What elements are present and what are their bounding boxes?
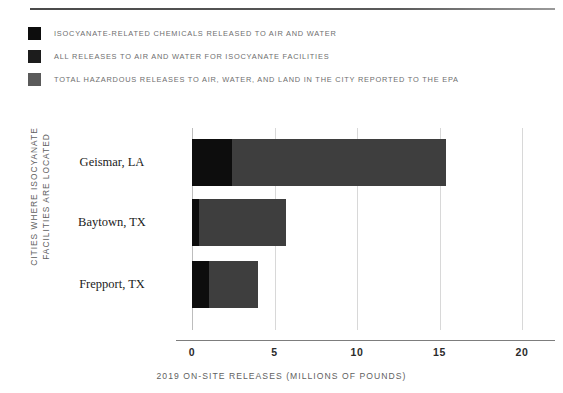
x-axis-line [176,340,555,341]
x-tick-label: 15 [420,346,460,358]
bar-chart: Geismar, LABaytown, TXFrepport, TX 05101… [0,0,563,393]
bar-group [192,261,522,308]
gridline [522,128,523,330]
category-label: Frepport, TX [42,277,182,292]
y-axis-title-line-2: FACILITIES ARE LOCATED [40,97,52,297]
category-label: Geismar, LA [42,155,182,170]
x-tick-label: 0 [172,346,212,358]
y-axis-title: CITIES WHERE ISOCYANATE FACILITIES ARE L… [29,97,52,297]
category-label: Baytown, TX [42,215,182,230]
bar-group [192,199,522,246]
bar-segment [192,199,286,246]
x-tick-label: 10 [337,346,377,358]
x-axis-title: 2019 ON-SITE RELEASES (MILLIONS OF POUND… [0,371,563,381]
bar-segment [192,139,232,186]
x-tick-label: 20 [502,346,542,358]
bar-segment [192,261,209,308]
bar-segment [192,199,199,246]
y-axis-title-line-1: CITIES WHERE ISOCYANATE [29,97,41,297]
x-tick-label: 5 [255,346,295,358]
bar-group [192,139,522,186]
